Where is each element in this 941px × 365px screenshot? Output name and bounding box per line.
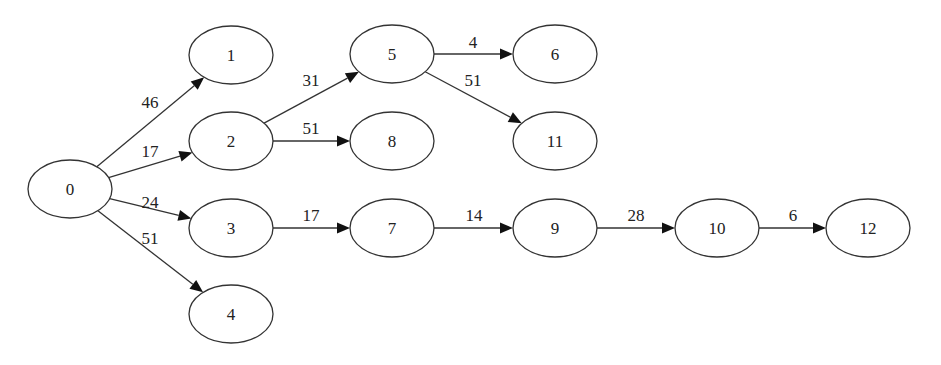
node-8: 8	[350, 112, 434, 170]
edge-3-7: 17	[273, 206, 350, 234]
arrowhead-icon	[178, 151, 192, 162]
edge-weight-label: 31	[303, 71, 320, 90]
node-label: 11	[547, 132, 563, 151]
node-label: 1	[227, 46, 236, 65]
node-3: 3	[189, 199, 273, 257]
node-label: 2	[227, 132, 236, 151]
node-9: 9	[513, 199, 597, 257]
edge-5-6: 4	[434, 33, 513, 60]
node-4: 4	[189, 285, 273, 343]
edge-weight-label: 17	[303, 206, 321, 225]
arrowhead-icon	[508, 112, 522, 123]
arrowhead-icon	[345, 72, 359, 83]
node-label: 6	[551, 45, 560, 64]
node-12: 12	[826, 199, 910, 257]
node-1: 1	[189, 26, 273, 84]
node-0: 0	[28, 160, 112, 218]
edge-weight-label: 46	[142, 93, 159, 112]
edge-weight-label: 28	[628, 206, 645, 225]
edge-7-9: 14	[434, 206, 513, 234]
node-label: 8	[388, 132, 397, 151]
edge-10-12: 6	[759, 206, 826, 234]
edge-weight-label: 17	[142, 142, 160, 161]
arrowhead-icon	[500, 49, 513, 60]
edge-weight-label: 51	[142, 229, 159, 248]
edge-weight-label: 51	[303, 119, 320, 138]
arrowhead-icon	[191, 77, 205, 90]
arrowhead-icon	[337, 136, 350, 147]
node-label: 0	[66, 180, 75, 199]
arrowhead-icon	[662, 223, 675, 234]
edge-weight-label: 4	[469, 33, 478, 52]
node-label: 7	[388, 219, 397, 238]
edge-weight-label: 51	[465, 71, 482, 90]
node-label: 9	[551, 219, 560, 238]
arrowhead-icon	[500, 223, 513, 234]
node-6: 6	[513, 25, 597, 83]
edge-5-11: 51	[425, 71, 522, 123]
edge-weight-label: 6	[789, 206, 798, 225]
arrowhead-icon	[177, 210, 191, 221]
edge-0-3: 24	[110, 193, 192, 221]
edge-2-5: 31	[264, 71, 359, 123]
node-5: 5	[350, 25, 434, 83]
edge-weight-label: 24	[142, 193, 160, 212]
node-label: 10	[709, 219, 726, 238]
arrowhead-icon	[337, 223, 350, 234]
edge-0-4: 51	[98, 211, 203, 293]
edge-weight-label: 14	[466, 206, 484, 225]
edge-9-10: 28	[597, 206, 675, 234]
node-label: 3	[227, 219, 236, 238]
node-label: 4	[227, 305, 236, 324]
node-10: 10	[675, 199, 759, 257]
node-label: 5	[388, 45, 397, 64]
node-label: 12	[860, 219, 877, 238]
edge-0-2: 17	[109, 142, 193, 178]
node-2: 2	[189, 112, 273, 170]
arrowhead-icon	[813, 223, 826, 234]
node-11: 11	[513, 112, 597, 170]
graph-canvas: 4617245131514511714286 0123456811791012	[0, 0, 941, 365]
arrowhead-icon	[189, 280, 203, 292]
edge-2-8: 51	[273, 119, 350, 147]
node-7: 7	[350, 199, 434, 257]
